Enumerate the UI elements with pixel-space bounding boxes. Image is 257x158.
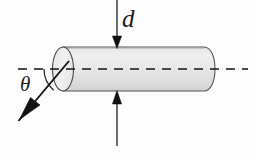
arrow-down-icon: [112, 0, 121, 49]
cylinder-diagram-figure: d θ: [0, 0, 257, 158]
angle-label: θ: [20, 74, 30, 95]
diameter-label: d: [122, 6, 135, 31]
arrow-up-head: [112, 91, 121, 105]
arrow-up-icon: [112, 91, 121, 147]
diagonal-ray-head: [20, 98, 41, 120]
